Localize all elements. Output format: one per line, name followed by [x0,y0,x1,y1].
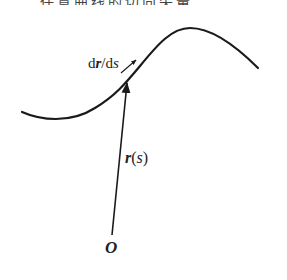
curve-diagram: dr/ds r(s) O [0,0,287,280]
tangent-label: dr/ds [88,55,119,71]
tangent-vector-arrow [121,60,136,73]
space-curve [22,28,258,119]
origin-label: O [105,238,117,257]
position-vector-label: r(s) [125,149,148,167]
